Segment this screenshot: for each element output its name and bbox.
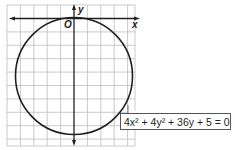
x-axis-left-arrow-icon (9, 17, 15, 21)
y-axis-down-arrow-icon (72, 140, 76, 146)
x-axis-right-arrow-icon (134, 17, 140, 21)
equation-label: 4x² + 4y² + 36y + 5 = 0 (120, 113, 231, 130)
grid (7, 5, 135, 146)
